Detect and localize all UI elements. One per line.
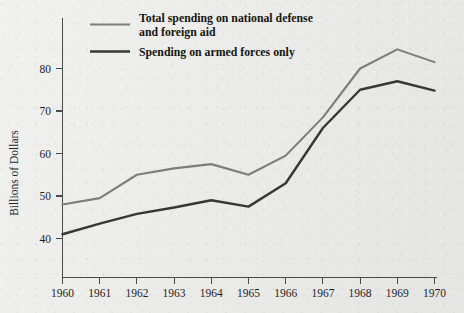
y-axis-ticks	[56, 69, 63, 239]
y-tick-label-40: 40	[40, 233, 52, 245]
x-tick-label-1966: 1966	[274, 287, 297, 299]
legend-label-armed-forces: Spending on armed forces only	[139, 45, 295, 59]
y-tick-label-50: 50	[40, 190, 52, 202]
x-tick-label-1961: 1961	[88, 287, 111, 299]
series-line-armed-forces	[63, 81, 435, 234]
x-tick-label-1970: 1970	[423, 287, 446, 299]
x-tick-label-1967: 1967	[311, 287, 334, 299]
x-tick-label-1965: 1965	[237, 287, 260, 299]
x-axis-tick-labels: 1960 1961 1962 1963 1964 1965 1966 1967 …	[51, 287, 446, 299]
chart-legend: Total spending on national defense and f…	[90, 11, 313, 59]
y-tick-label-70: 70	[40, 105, 52, 117]
x-tick-label-1969: 1969	[386, 287, 409, 299]
y-tick-label-60: 60	[40, 148, 52, 160]
x-tick-label-1962: 1962	[125, 287, 148, 299]
y-axis-tick-labels: 80 70 60 50 40	[40, 63, 52, 245]
series-line-total-spending	[63, 49, 435, 204]
x-tick-label-1963: 1963	[163, 287, 186, 299]
x-axis-ticks	[63, 278, 435, 285]
chart-container: 80 70 60 50 40 Billions of Dollars 1960 …	[0, 0, 464, 313]
legend-label-total-spending-line2: and foreign aid	[139, 25, 216, 39]
x-tick-label-1964: 1964	[200, 287, 223, 299]
x-tick-label-1960: 1960	[51, 287, 74, 299]
legend-label-total-spending-line1: Total spending on national defense	[139, 11, 313, 25]
y-tick-label-80: 80	[40, 63, 52, 75]
y-axis-title: Billions of Dollars	[8, 130, 20, 216]
x-tick-label-1968: 1968	[349, 287, 372, 299]
line-chart: 80 70 60 50 40 Billions of Dollars 1960 …	[0, 0, 464, 313]
